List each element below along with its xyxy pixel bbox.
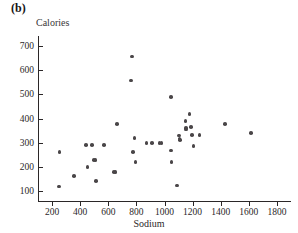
data-point	[72, 174, 76, 178]
y-tick-label-wrap: 600	[6, 65, 34, 75]
x-tick-mark	[136, 202, 137, 206]
data-point	[192, 144, 196, 148]
data-point	[145, 141, 149, 145]
data-point	[198, 133, 202, 137]
data-point	[90, 143, 94, 147]
y-tick-mark	[39, 167, 43, 168]
y-tick-label: 200	[8, 162, 34, 172]
data-point	[114, 170, 118, 174]
y-tick-label: 400	[8, 114, 34, 124]
x-tick-mark	[108, 202, 109, 206]
y-tick-label-wrap: 200	[6, 162, 34, 172]
data-point	[184, 128, 188, 132]
scatter-figure: (b) Calories 100200300400500600700 20040…	[0, 0, 298, 233]
x-tick-mark	[52, 202, 53, 206]
data-point	[175, 184, 179, 188]
panel-label: (b)	[11, 2, 26, 15]
data-point	[115, 122, 119, 126]
x-tick-label: 1800	[260, 207, 294, 217]
data-point	[94, 158, 98, 162]
y-tick-mark	[39, 94, 43, 95]
data-point	[130, 55, 134, 59]
x-tick-mark	[165, 202, 166, 206]
y-tick-label-wrap: 100	[6, 186, 34, 196]
y-tick-mark	[39, 143, 43, 144]
data-point	[84, 143, 88, 147]
y-tick-label-wrap: 500	[6, 89, 34, 99]
data-point	[190, 133, 194, 137]
data-point	[170, 160, 174, 164]
data-point	[131, 150, 135, 154]
y-tick-label-wrap: 300	[6, 138, 34, 148]
data-point	[184, 119, 188, 123]
data-point	[223, 122, 227, 126]
y-axis-title: Calories	[36, 17, 69, 28]
data-point	[249, 131, 253, 135]
data-point	[86, 165, 90, 169]
data-point	[57, 185, 61, 189]
data-point	[150, 141, 154, 145]
y-tick-mark	[39, 119, 43, 120]
y-tick-mark	[39, 70, 43, 71]
x-tick-mark	[277, 202, 278, 206]
data-point	[160, 141, 164, 145]
data-point	[178, 138, 182, 142]
data-point	[94, 179, 98, 183]
data-point	[134, 160, 138, 164]
x-tick-mark	[221, 202, 222, 206]
data-point	[58, 150, 62, 154]
x-tick-mark	[193, 202, 194, 206]
data-point	[189, 125, 193, 129]
data-point	[102, 143, 106, 147]
data-point	[169, 95, 173, 99]
y-tick-mark	[39, 191, 43, 192]
x-tick-mark	[80, 202, 81, 206]
y-tick-mark	[39, 46, 43, 47]
x-axis-title: Sodium	[0, 218, 298, 229]
y-tick-label: 500	[8, 89, 34, 99]
data-point	[188, 112, 192, 116]
y-tick-label: 300	[8, 138, 34, 148]
x-tick-mark	[249, 202, 250, 206]
y-tick-label: 700	[8, 41, 34, 51]
data-point	[133, 136, 137, 140]
data-point	[169, 149, 173, 153]
data-point	[129, 79, 133, 83]
y-tick-label-wrap: 700	[6, 41, 34, 51]
y-tick-label: 600	[8, 65, 34, 75]
y-tick-label-wrap: 400	[6, 114, 34, 124]
y-tick-label: 100	[8, 186, 34, 196]
